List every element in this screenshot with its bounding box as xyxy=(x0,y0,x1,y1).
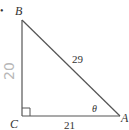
vertex-label-a: A xyxy=(120,111,129,125)
base-length: 21 xyxy=(64,119,75,130)
angle-theta: θ xyxy=(92,103,97,114)
hypotenuse-length: 29 xyxy=(72,53,84,65)
right-angle-marker xyxy=(22,108,30,116)
vertex-label-c: C xyxy=(10,117,19,130)
bullet-dot: • xyxy=(0,5,4,16)
vertex-label-b: B xyxy=(15,4,23,18)
handwritten-leg-length: 20 xyxy=(1,62,17,80)
triangle-diagram: • B C A 29 21 θ 20 xyxy=(0,0,129,130)
side-ab-hypotenuse xyxy=(22,20,120,116)
